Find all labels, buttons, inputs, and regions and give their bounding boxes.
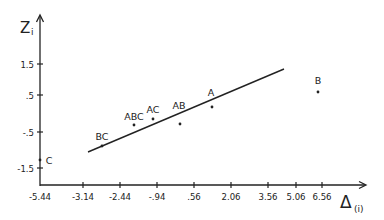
x-tick-label: 6.56 (312, 191, 331, 202)
svg-text:Z: Z (20, 19, 30, 37)
x-tick-label: 2.06 (221, 191, 240, 202)
point-label-ab: AB (172, 100, 185, 111)
point-c (39, 159, 42, 162)
x-tick-label: -5.44 (29, 191, 51, 202)
point-abc (133, 124, 136, 127)
point-ab (179, 123, 182, 126)
x-axis-label: Δ (i) (340, 192, 364, 214)
x-tick-label: -2.44 (109, 191, 131, 202)
y-tick-label: .5 (26, 90, 34, 101)
y-tick-label: -1.5 (17, 163, 34, 174)
point-label-ac: AC (147, 104, 160, 115)
x-tick-label: -3.14 (72, 191, 94, 202)
x-tick-label: 3.56 (258, 191, 277, 202)
point-label-a: A (208, 87, 215, 98)
x-tick-label: 5.06 (286, 191, 305, 202)
svg-text:i: i (31, 27, 34, 37)
y-axis-label: Z i (20, 19, 34, 37)
point-labels: C BC ABC AC AB A B (46, 75, 322, 166)
y-tick-labels: 1.5 .5 -.5 -1.5 (17, 59, 34, 174)
point-ac (152, 118, 155, 121)
fit-line (88, 69, 284, 152)
svg-text:Δ: Δ (340, 192, 352, 212)
scatter-chart: 1.5 .5 -.5 -1.5 -5.44 -3.14 -2.44 -.94 .… (0, 0, 384, 220)
point-a (211, 106, 214, 109)
y-tick-label: 1.5 (20, 59, 34, 70)
point-label-b: B (315, 75, 322, 86)
point-bc (101, 145, 104, 148)
point-label-abc: ABC (124, 111, 144, 122)
svg-text:(i): (i) (354, 204, 364, 214)
x-tick-label: -.94 (149, 191, 166, 202)
point-label-bc: BC (96, 131, 109, 142)
y-tick-label: -.5 (23, 127, 34, 138)
x-tick-label: .56 (187, 191, 201, 202)
x-tick-labels: -5.44 -3.14 -2.44 -.94 .56 2.06 3.56 5.0… (29, 191, 332, 202)
point-b (317, 91, 320, 94)
point-label-c: C (46, 155, 53, 166)
